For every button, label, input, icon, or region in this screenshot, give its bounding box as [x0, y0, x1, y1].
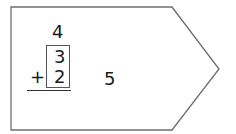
addend-2: 2 [54, 68, 65, 86]
plus-operator: + [30, 68, 45, 86]
answer: 5 [104, 70, 115, 88]
sum-line [27, 90, 71, 91]
top-number: 4 [52, 23, 63, 41]
addend-1: 3 [54, 48, 65, 66]
